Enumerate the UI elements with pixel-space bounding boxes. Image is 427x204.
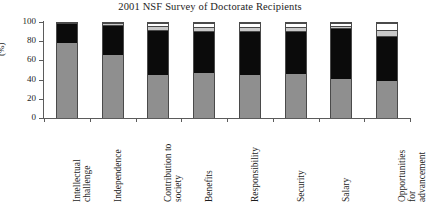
bar-segment-somewhat-satisfied — [240, 31, 260, 74]
bar-segment-somewhat-satisfied — [148, 30, 168, 75]
y-tick-label-40: 40 — [6, 74, 36, 84]
bar-opportunities-for-advancement[interactable] — [376, 22, 398, 118]
plot-area — [44, 22, 410, 118]
bar-segment-very-satisfied — [240, 75, 260, 118]
bar-independence[interactable] — [102, 22, 124, 118]
bar-segment-somewhat-satisfied — [103, 25, 123, 55]
x-tick-0 — [44, 118, 45, 122]
bar-salary[interactable] — [330, 22, 352, 118]
x-axis-label-4: Responsibility — [250, 147, 260, 202]
x-axis-labels: IntellectualchallengeIndependenceContrib… — [44, 124, 410, 204]
y-tick-label-80: 80 — [6, 35, 36, 45]
x-tick-6 — [319, 118, 320, 122]
x-axis-label-6: Salary — [341, 178, 351, 202]
bar-benefits[interactable] — [193, 22, 215, 118]
x-axis-label-7: Opportunitiesforadvancement — [397, 150, 427, 202]
bar-contribution-to-society[interactable] — [147, 22, 169, 118]
x-tick-5 — [273, 118, 274, 122]
y-tick-label-20: 20 — [6, 93, 36, 103]
x-tick-1 — [90, 118, 91, 122]
bar-segment-somewhat-satisfied — [57, 23, 77, 43]
x-axis-label-line: Benefits — [204, 170, 214, 202]
y-tick-20 — [39, 99, 43, 100]
x-tick-3 — [181, 118, 182, 122]
y-tick-label-0: 0 — [6, 112, 36, 122]
bar-security[interactable] — [285, 22, 307, 118]
x-axis-label-line: Contribution to — [163, 144, 173, 202]
bar-segment-very-satisfied — [286, 74, 306, 118]
x-tick-4 — [227, 118, 228, 122]
bar-segment-very-satisfied — [103, 55, 123, 118]
y-tick-60 — [39, 60, 43, 61]
y-tick-label-60: 60 — [6, 54, 36, 64]
x-axis-label-line: Opportunities — [397, 150, 407, 202]
x-axis-label-3: Benefits — [204, 170, 214, 202]
bar-segment-very-satisfied — [194, 73, 214, 118]
bar-segment-very-satisfied — [148, 75, 168, 118]
x-tick-8 — [410, 118, 411, 122]
x-axis-label-line: challenge — [82, 159, 92, 202]
x-axis-label-line: Independence — [113, 149, 123, 202]
x-axis-label-5: Security — [296, 170, 306, 202]
x-axis-label-2: Contribution tosociety — [163, 144, 183, 202]
x-tick-2 — [136, 118, 137, 122]
bar-segment-very-satisfied — [331, 79, 351, 118]
x-axis-label-line: Intellectual — [72, 159, 82, 202]
y-tick-40 — [39, 80, 43, 81]
bar-segment-very-satisfied — [57, 43, 77, 118]
x-axis-label-0: Intellectualchallenge — [72, 159, 92, 202]
x-axis-label-line: Responsibility — [250, 147, 260, 202]
bar-segment-very-satisfied — [377, 81, 397, 118]
y-tick-0 — [39, 118, 43, 119]
x-axis-label-1: Independence — [113, 149, 123, 202]
chart-title: 2001 NSF Survey of Doctorate Recipients — [0, 1, 420, 12]
x-tick-7 — [364, 118, 365, 122]
y-tick-80 — [39, 41, 43, 42]
x-axis-label-line: Security — [296, 170, 306, 202]
bar-responsibility[interactable] — [239, 22, 261, 118]
x-axis-label-line: for — [407, 150, 417, 202]
bar-segment-somewhat-satisfied — [377, 36, 397, 81]
bar-intellectual-challenge[interactable] — [56, 22, 78, 118]
x-axis-label-line: Salary — [341, 178, 351, 202]
x-axis-label-line: society — [173, 144, 183, 202]
y-tick-label-100: 100 — [6, 16, 36, 26]
x-axis-label-line: advancement — [417, 150, 427, 202]
bar-segment-somewhat-satisfied — [331, 28, 351, 80]
bar-segment-somewhat-satisfied — [286, 31, 306, 73]
y-tick-100 — [39, 22, 43, 23]
bar-segment-somewhat-satisfied — [194, 31, 214, 72]
